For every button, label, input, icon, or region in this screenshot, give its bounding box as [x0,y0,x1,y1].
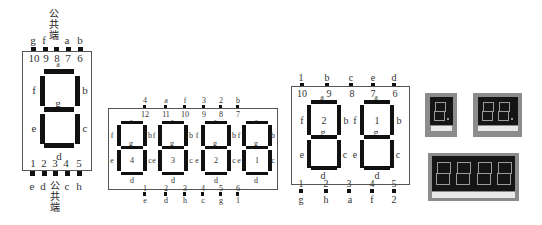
segment-g [246,146,268,149]
segment-g [205,146,227,149]
pin-3 [347,189,351,193]
segment-a [121,121,143,124]
pin-number-4: 4 [60,158,72,169]
seg-label-f: f [233,132,245,140]
seg-label-e: e [148,157,160,165]
pin-number-4: 4 [366,179,378,189]
pin-1 [30,171,35,176]
two-digit-body [291,86,410,185]
bottom-signal-label-g: g [215,197,227,205]
segment-d [246,172,268,175]
top-seg-label-a: a [61,35,73,46]
digit-index: 1 [371,116,383,126]
seg-label-d: d [126,177,138,185]
pin-number-3: 3 [343,179,355,189]
bottom-signal-label-d: d [160,197,172,205]
segment-d [121,172,143,175]
seg-label-b: b [267,132,279,140]
segment-a [44,69,74,74]
seg-label-f: f [296,116,308,126]
seg-label-c: c [392,150,404,160]
bottom-seg-label-c: c [61,181,73,192]
segment-d [162,172,184,175]
pin-5 [77,171,82,176]
top-common-label-1: 公 [48,8,60,19]
segment-g [44,107,74,112]
single-digit-display-photo [425,93,457,137]
top-signal-label-d: d [388,73,400,83]
digit-index: 2 [318,116,330,126]
pin-number-6: 6 [389,89,401,99]
pin-number-2: 2 [320,179,332,189]
seg-label-e: e [28,123,40,134]
seg-label-f: f [106,132,118,140]
seg-label-f: f [148,132,160,140]
pin-4 [370,189,374,193]
seg-label-f: f [191,132,203,140]
pin-number-8: 8 [346,89,358,99]
bottom-seg-label-d: d [37,181,49,192]
pin-5 [392,189,396,193]
pin-number-10: 10 [28,53,40,64]
top-signal-label-c: c [345,73,357,83]
digit-index: 2 [210,157,222,165]
segment-g [162,146,184,149]
bottom-common-label-3: 端 [49,202,61,213]
seg-label-e: e [233,157,245,165]
segment-g [121,146,143,149]
pin-4 [65,171,70,176]
seg-label-d: d [250,177,262,185]
top-signal-label-b: b [232,97,244,105]
pin-2 [324,189,328,193]
pin-number-1: 1 [295,179,307,189]
pin-3 [53,171,58,176]
pin-number-7: 7 [232,111,244,119]
top-signal-label-a: a [160,97,172,105]
bottom-signal-label-e: e [139,197,151,205]
digit-index: 3 [167,157,179,165]
segment-d [205,172,227,175]
bottom-signal-label-a: a [344,195,356,205]
pin-number-10: 10 [179,111,191,119]
bottom-signal-label-f: f [366,195,378,205]
top-signal-label-4: 4 [139,97,151,105]
seg-label-c: c [79,123,91,134]
pin-number-6: 6 [74,53,86,64]
top-signal-label-1: 1 [295,73,307,83]
segment-d [44,143,74,148]
pin-2 [42,171,47,176]
bottom-common-label-2: 共 [49,191,61,202]
top-common-label-2: 共 [48,19,60,30]
top-seg-label-f: f [38,35,50,46]
bottom-signal-label-2: 2 [388,195,400,205]
pin-number-5: 5 [73,158,85,169]
bottom-common-label-1: 公 [49,180,61,191]
seg-label-e: e [349,150,361,160]
segment-a [246,121,268,124]
top-signal-label-f: f [179,97,191,105]
seg-label-b: b [79,85,91,96]
bottom-signal-label-h: h [320,195,332,205]
pin-1 [299,189,303,193]
seg-label-c: c [267,157,279,165]
top-signal-label-2: 2 [215,97,227,105]
segment-a [364,100,390,104]
segment-a [311,100,337,104]
bottom-signal-label-c: c [197,197,209,205]
segment-g [364,135,390,139]
two-digit-display-photo [473,93,522,137]
bottom-signal-label-1: 1 [232,197,244,205]
segment-a [162,121,184,124]
seg-label-f: f [349,116,361,126]
segment-a [205,121,227,124]
top-seg-label-b: b [74,35,86,46]
pin-number-5: 5 [388,179,400,189]
digit-index: 1 [251,157,263,165]
bottom-signal-label-h: h [179,197,191,205]
segment-f [40,76,45,106]
pin-number-10: 10 [294,89,310,99]
digit-index: 4 [126,157,138,165]
seg-label-b: b [393,116,405,126]
seg-label-d: d [167,177,179,185]
segment-e [40,114,45,144]
